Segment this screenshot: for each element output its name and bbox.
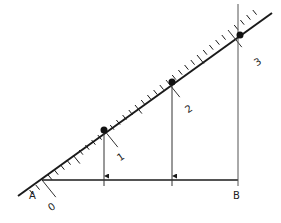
scale-label-1: 1 <box>115 151 127 164</box>
graduated-scale-diagram: A B 0 1 2 3 <box>0 0 281 223</box>
point-3 <box>237 32 244 39</box>
label-A: A <box>29 190 36 201</box>
point-1 <box>101 127 108 134</box>
ruler-ticks <box>30 10 257 197</box>
point-2 <box>169 79 176 86</box>
label-B: B <box>233 190 240 201</box>
scale-label-2: 2 <box>183 103 195 116</box>
scale-label-3: 3 <box>252 56 264 69</box>
scale-label-0: 0 <box>46 201 58 214</box>
